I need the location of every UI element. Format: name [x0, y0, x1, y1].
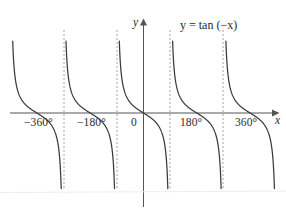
y-axis-arrowhead	[140, 19, 147, 26]
tangent-function-figure: −360° −180° 0 180° 360° y x y = tan (−x)	[0, 0, 286, 207]
axes-group	[10, 19, 280, 208]
x-tick-label-minus-360: −360°	[24, 116, 53, 128]
tangent-branch-4	[226, 41, 275, 189]
x-tick-label-180: 180°	[180, 116, 202, 128]
x-tick-label-minus-180: −180°	[77, 116, 106, 128]
y-axis-label: y	[133, 16, 138, 28]
x-tick-label-360: 360°	[235, 116, 257, 128]
plot-canvas	[0, 0, 286, 207]
tangent-branch-3	[173, 41, 222, 189]
tangent-branch-1	[66, 41, 115, 189]
equation-label: y = tan (−x)	[180, 18, 237, 33]
tangent-branch-0	[13, 41, 62, 189]
x-axis-label: x	[275, 114, 280, 126]
x-tick-label-zero: 0	[131, 116, 137, 128]
